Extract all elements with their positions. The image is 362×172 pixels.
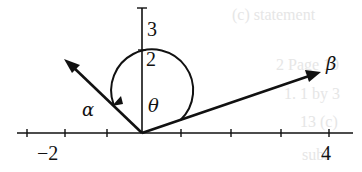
svg-text:1. 1 by 3: 1. 1 by 3 <box>284 85 340 103</box>
alpha-vector: α <box>64 59 142 133</box>
arc-arrowhead-icon <box>112 96 123 106</box>
theta-label: θ <box>148 95 159 116</box>
svg-text:(c) statement: (c) statement <box>232 6 316 24</box>
x-tick-label-neg2: −2 <box>37 142 58 164</box>
svg-text:13 (c): 13 (c) <box>300 113 338 131</box>
y-tick-label-3: 3 <box>147 18 157 40</box>
alpha-label: α <box>82 99 94 120</box>
beta-arrowhead-icon <box>305 70 321 82</box>
x-tick-label-4: 4 <box>321 142 331 164</box>
angle-diagram: (c) statement 2 Page 10 1. 1 by 3 13 (c)… <box>0 0 362 172</box>
beta-label: β <box>325 53 336 74</box>
y-tick-label-2: 2 <box>146 48 156 70</box>
